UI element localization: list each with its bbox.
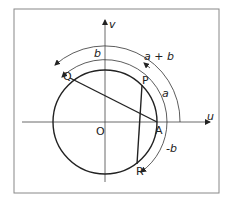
arc-label-b: b [94,47,101,60]
arc-label-minus-b: -b [166,142,177,155]
point-Q-label: Q [63,70,72,83]
u-axis-label: u [207,110,214,123]
point-R-label: R [136,165,144,178]
point-A-label: A [155,124,163,137]
v-axis-label: v [109,18,116,31]
chord-PR [137,85,142,164]
arc-minus-b [141,122,167,172]
arc-label-a-plus-b: a + b [144,50,174,63]
arc-a-arrow [144,63,150,68]
point-P-label: P [142,74,149,87]
arc-label-a: a [162,87,169,100]
origin-label: O [96,125,105,138]
unit-circle-diagram: u v O A P Q R b a a + b -b [0,0,227,204]
arc-b-inner [62,60,167,122]
